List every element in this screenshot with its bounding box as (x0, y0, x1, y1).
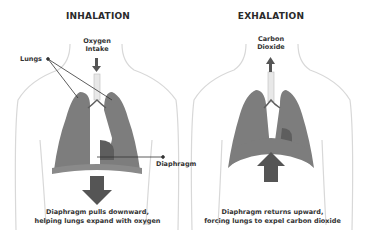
inhalation-caption: Diaphragm pulls downward, helping lungs … (30, 208, 165, 226)
oxygen-intake-label: Oxygen Intake (77, 37, 117, 53)
carbon-dioxide-label-line2: Dioxide (251, 43, 291, 51)
carbon-dioxide-arrow-icon (266, 57, 275, 72)
exhalation-caption-line2: forcing lungs to expel carbon dioxide (200, 217, 345, 226)
exhalation-caption: Diaphragm returns upward, forcing lungs … (200, 208, 345, 226)
oxygen-intake-arrow-icon (92, 58, 101, 72)
respiration-illustration (0, 0, 368, 240)
diaphragm-up-arrow-icon (257, 152, 285, 182)
oxygen-intake-label-line2: Intake (77, 45, 117, 53)
inhalation-caption-line2: helping lungs expand with oxygen (30, 217, 165, 226)
exhalation-caption-line1: Diaphragm returns upward, (200, 208, 345, 217)
oxygen-intake-label-line1: Oxygen (77, 37, 117, 45)
diaphragm-callout-label: Diaphragm (156, 160, 196, 168)
carbon-dioxide-label: Carbon Dioxide (251, 35, 291, 51)
lungs-callout-label: Lungs (20, 55, 46, 63)
inhalation-caption-line1: Diaphragm pulls downward, (30, 208, 165, 217)
inhalation-lungs (52, 74, 142, 174)
carbon-dioxide-label-line1: Carbon (251, 35, 291, 43)
diaphragm-down-arrow-icon (82, 176, 112, 205)
